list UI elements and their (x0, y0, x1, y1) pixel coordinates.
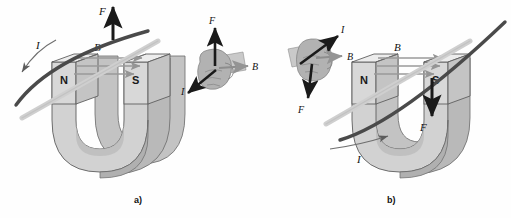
hand-label-b-a: B (252, 61, 258, 72)
field-label-b-b: B (394, 41, 401, 53)
physics-figure: N S B I F (0, 0, 511, 218)
force-label-f-a: F (98, 5, 106, 17)
hand-label-f-a: F (208, 15, 216, 26)
north-pole-side-b (376, 54, 398, 104)
pole-label-n-b: N (360, 74, 368, 86)
panel-caption-b: b) (387, 195, 396, 205)
hand-label-i-a: I (180, 86, 185, 97)
hand-label-f-b: F (297, 104, 305, 115)
hand-label-i-b: I (340, 24, 345, 35)
pole-label-s-a: S (132, 74, 139, 86)
panel-caption-a: a) (134, 195, 142, 205)
hand-label-b-b: B (347, 51, 353, 62)
south-pole-side-a (148, 54, 170, 104)
pole-label-n-a: N (60, 74, 68, 86)
force-label-f-b: F (419, 121, 427, 133)
